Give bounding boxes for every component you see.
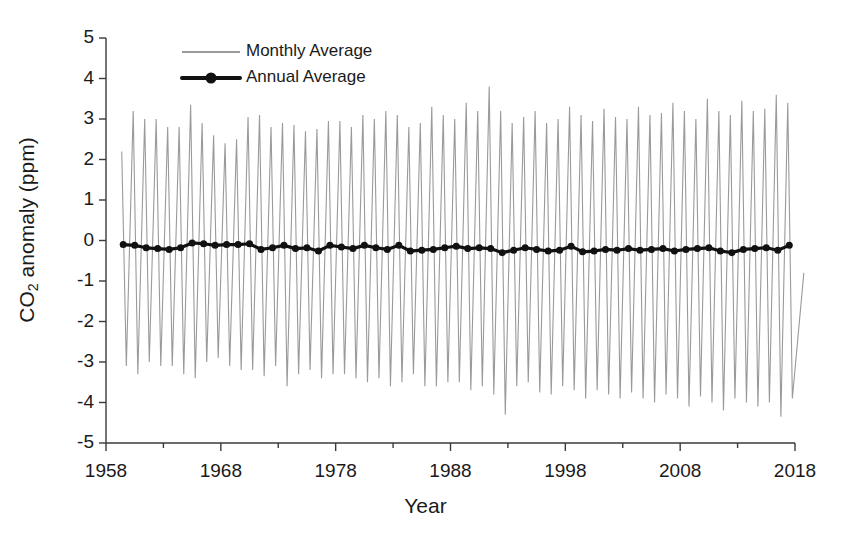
y-tick-label: -1 bbox=[50, 269, 94, 291]
annual-average-marker bbox=[212, 242, 219, 249]
monthly-average-line bbox=[122, 87, 804, 417]
annual-average-marker bbox=[361, 242, 368, 249]
annual-average-marker bbox=[728, 249, 735, 256]
annual-average-marker bbox=[464, 245, 471, 252]
x-tick-label: 1968 bbox=[181, 460, 261, 482]
annual-average-marker bbox=[166, 246, 173, 253]
annual-average-marker bbox=[154, 245, 161, 252]
annual-average-marker bbox=[682, 246, 689, 253]
x-tick-label: 1988 bbox=[411, 460, 491, 482]
annual-average-marker bbox=[533, 246, 540, 253]
annual-average-marker bbox=[258, 246, 265, 253]
annual-average-marker bbox=[545, 248, 552, 255]
annual-average-marker bbox=[303, 244, 310, 251]
annual-average-marker bbox=[510, 247, 517, 254]
x-tick-label: 2018 bbox=[755, 460, 835, 482]
annual-average-marker bbox=[591, 248, 598, 255]
y-tick-label: -2 bbox=[50, 310, 94, 332]
y-tick-label: 1 bbox=[50, 188, 94, 210]
annual-average-marker bbox=[499, 249, 506, 256]
annual-average-marker bbox=[763, 244, 770, 251]
annual-average-marker bbox=[407, 248, 414, 255]
annual-average-marker bbox=[453, 243, 460, 250]
monthly-average-series bbox=[122, 87, 804, 417]
annual-average-marker bbox=[200, 240, 207, 247]
annual-average-marker bbox=[556, 247, 563, 254]
annual-average-marker bbox=[671, 248, 678, 255]
annual-average-marker bbox=[315, 248, 322, 255]
annual-average-marker bbox=[292, 245, 299, 252]
y-axis-title-subscript: 2 bbox=[25, 283, 41, 291]
y-tick-label: -3 bbox=[50, 350, 94, 372]
annual-average-marker bbox=[395, 242, 402, 249]
x-tick-label: 1998 bbox=[525, 460, 605, 482]
annual-average-marker bbox=[717, 248, 724, 255]
y-tick-label: 3 bbox=[50, 107, 94, 129]
annual-average-marker bbox=[326, 242, 333, 249]
y-tick-label: 4 bbox=[50, 67, 94, 89]
legend-annual-marker-swatch bbox=[206, 73, 217, 84]
annual-average-marker bbox=[223, 241, 230, 248]
annual-average-marker bbox=[602, 246, 609, 253]
annual-average-marker bbox=[705, 244, 712, 251]
annual-average-marker bbox=[120, 241, 127, 248]
x-tick-label: 1958 bbox=[66, 460, 146, 482]
annual-average-marker bbox=[177, 244, 184, 251]
co2-anomaly-chart: CO2 anomaly (ppm) Year 543210-1-2-3-4-5 … bbox=[0, 0, 851, 541]
annual-average-marker bbox=[522, 244, 529, 251]
annual-average-marker bbox=[235, 241, 242, 248]
annual-average-marker bbox=[648, 246, 655, 253]
annual-average-marker bbox=[625, 245, 632, 252]
y-axis-title-pre: CO bbox=[15, 291, 38, 323]
annual-average-marker bbox=[143, 244, 150, 251]
annual-average-marker bbox=[614, 247, 621, 254]
annual-average-marker bbox=[694, 245, 701, 252]
y-tick-label: 5 bbox=[50, 26, 94, 48]
annual-average-marker bbox=[476, 244, 483, 251]
annual-average-marker bbox=[786, 242, 793, 249]
annual-average-marker bbox=[740, 246, 747, 253]
annual-average-marker bbox=[338, 243, 345, 250]
annual-average-marker bbox=[579, 248, 586, 255]
annual-average-series bbox=[120, 239, 793, 256]
annual-average-marker bbox=[568, 243, 575, 250]
annual-average-marker bbox=[430, 246, 437, 253]
annual-average-marker bbox=[418, 247, 425, 254]
annual-average-marker bbox=[280, 242, 287, 249]
y-axis-title-post: anomaly (ppm) bbox=[15, 137, 38, 283]
y-axis-title: CO2 anomaly (ppm) bbox=[0, 0, 56, 460]
y-tick-label: 2 bbox=[50, 148, 94, 170]
y-tick-label: -5 bbox=[50, 431, 94, 453]
annual-average-marker bbox=[246, 240, 253, 247]
annual-average-marker bbox=[441, 244, 448, 251]
annual-average-marker bbox=[189, 239, 196, 246]
annual-average-marker bbox=[269, 244, 276, 251]
annual-average-marker bbox=[131, 242, 138, 249]
annual-average-marker bbox=[751, 245, 758, 252]
x-tick-label: 2008 bbox=[640, 460, 720, 482]
annual-average-marker bbox=[774, 247, 781, 254]
y-tick-label: 0 bbox=[50, 229, 94, 251]
legend-glyphs bbox=[182, 52, 240, 84]
x-axis-title: Year bbox=[0, 494, 851, 518]
annual-average-marker bbox=[372, 244, 379, 251]
y-tick-label: -4 bbox=[50, 391, 94, 413]
x-tick-label: 1978 bbox=[296, 460, 376, 482]
annual-average-marker bbox=[487, 245, 494, 252]
legend-label-monthly-average: Monthly Average bbox=[246, 41, 372, 61]
annual-average-marker bbox=[659, 245, 666, 252]
annual-average-marker bbox=[349, 245, 356, 252]
legend-label-annual-average: Annual Average bbox=[246, 67, 366, 87]
annual-average-marker bbox=[384, 246, 391, 253]
annual-average-marker bbox=[636, 247, 643, 254]
